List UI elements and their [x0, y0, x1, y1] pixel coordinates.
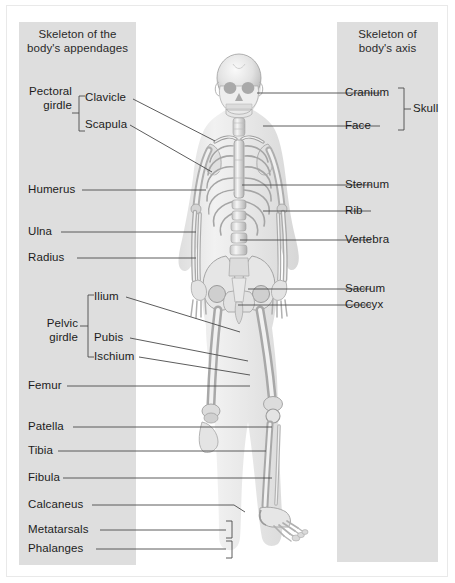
label-sacrum: Sacrum — [345, 282, 385, 295]
label-ilium: Ilium — [94, 290, 119, 303]
bracket-skull — [398, 88, 404, 130]
label-scapula: Scapula — [85, 118, 127, 131]
label-ischium: Ischium — [94, 350, 134, 363]
leader-ilium — [126, 297, 240, 332]
label-vertebra: Vertebra — [345, 233, 389, 246]
label-pelvic-girdle-line1: Pelvic — [26, 317, 78, 331]
bracket-pelvic-girdle — [88, 295, 94, 357]
label-skull: Skull — [413, 102, 438, 115]
label-pectoral-girdle-line2: girdle — [24, 99, 72, 113]
label-coccyx: Coccyx — [345, 298, 383, 311]
label-rib: Rib — [345, 204, 363, 217]
label-phalanges: Phalanges — [28, 542, 83, 555]
label-radius: Radius — [28, 251, 64, 264]
label-face: Face — [345, 119, 371, 132]
label-ulna: Ulna — [28, 225, 52, 238]
label-clavicle: Clavicle — [85, 91, 126, 104]
leader-calcaneus — [92, 505, 245, 512]
label-calcaneus: Calcaneus — [28, 498, 83, 511]
label-pectoral-girdle-line1: Pectoral — [24, 85, 72, 99]
leader-pubis — [130, 338, 248, 361]
label-fibula: Fibula — [28, 471, 60, 484]
label-tibia: Tibia — [28, 444, 53, 457]
label-pubis: Pubis — [94, 331, 123, 344]
bracket-metatarsals — [226, 521, 232, 538]
label-pelvic-girdle: Pelvic girdle — [26, 317, 78, 344]
bracket-phalanges — [226, 541, 232, 558]
label-metatarsals: Metatarsals — [28, 523, 89, 536]
label-cranium: Cranium — [345, 86, 389, 99]
label-sternum: Sternum — [345, 178, 389, 191]
leader-ischium — [139, 357, 250, 375]
label-patella: Patella — [28, 420, 64, 433]
leader-clavicle — [133, 99, 215, 141]
diagram-page: Skeleton of the body's appendages Skelet… — [0, 0, 455, 583]
label-humerus: Humerus — [28, 183, 75, 196]
label-pectoral-girdle: Pectoral girdle — [24, 85, 72, 112]
leader-scapula — [130, 125, 212, 172]
label-femur: Femur — [28, 379, 62, 392]
label-pelvic-girdle-line2: girdle — [26, 331, 78, 345]
